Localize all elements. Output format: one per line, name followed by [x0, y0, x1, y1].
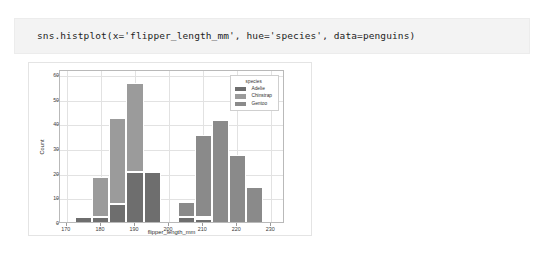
legend-swatch — [235, 87, 246, 92]
x-tick-label: 220 — [232, 226, 241, 232]
bar-segment — [195, 135, 212, 216]
x-tick-label: 190 — [130, 226, 139, 232]
bar-segment — [92, 177, 109, 216]
x-tick-mark — [270, 223, 271, 226]
x-tick-label: 230 — [266, 226, 275, 232]
legend: species AdelieChinstrapGentoo — [230, 75, 279, 111]
bar-segment — [144, 172, 161, 223]
legend-swatch — [235, 102, 246, 107]
bar-segment — [109, 204, 126, 223]
legend-swatch — [235, 94, 246, 99]
x-tick-label: 170 — [61, 226, 70, 232]
bar-segment — [109, 118, 126, 204]
legend-item: Chinstrap — [235, 94, 272, 100]
x-tick-label: 210 — [198, 226, 207, 232]
plot-axes: species AdelieChinstrapGentoo — [59, 70, 284, 223]
x-tick-label: 200 — [164, 226, 173, 232]
code-text: sns.histplot(x='flipper_length_mm', hue=… — [37, 30, 415, 41]
screenshot-root: sns.histplot(x='flipper_length_mm', hue=… — [0, 0, 544, 275]
x-tick-mark — [236, 223, 237, 226]
x-tick-mark — [134, 223, 135, 226]
legend-item: Gentoo — [235, 101, 272, 107]
bar-segment — [212, 120, 229, 223]
legend-label: Gentoo — [251, 102, 267, 107]
figure-panel: Count flipper_length_mm 0102030405060 17… — [28, 62, 312, 236]
x-tick-mark — [100, 223, 101, 226]
bar-segment — [229, 155, 246, 223]
bar-segment — [126, 172, 143, 223]
bar-segment — [126, 83, 143, 172]
bar-segment — [178, 217, 195, 223]
code-cell[interactable]: sns.histplot(x='flipper_length_mm', hue=… — [14, 18, 530, 54]
legend-label: Adelie — [251, 87, 264, 92]
x-tick-label: 180 — [95, 226, 104, 232]
bar-segment — [195, 217, 212, 219]
bar-segment — [195, 219, 212, 223]
legend-label: Chinstrap — [251, 94, 272, 99]
bar-segment — [92, 217, 109, 223]
bar-segment — [144, 170, 161, 172]
x-tick-mark — [168, 223, 169, 226]
legend-entries: AdelieChinstrapGentoo — [235, 86, 272, 107]
bar-segment — [75, 217, 92, 223]
x-tick-mark — [202, 223, 203, 226]
y-tick-mark — [56, 223, 59, 224]
bar-segment — [178, 202, 195, 217]
legend-title: species — [235, 79, 272, 84]
x-tick-mark — [66, 223, 67, 226]
legend-item: Adelie — [235, 86, 272, 92]
bar-segment — [246, 187, 263, 223]
